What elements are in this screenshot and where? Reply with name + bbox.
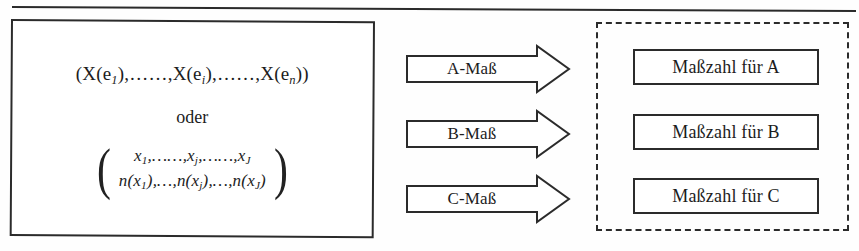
matrix-bot-a: n(x [119, 171, 141, 190]
frequency-matrix: ( x1,……,xj,……,xJ n(x1),…,n(xj),…,n(xJ) ) [94, 144, 290, 193]
result-box-b-label: Maßzahl für B [672, 122, 780, 143]
arrow-a-mass: A-Maß [405, 44, 571, 94]
matrix-rows: x1,……,xj,……,xJ n(x1),…,n(xj),…,n(xJ) [115, 144, 270, 193]
result-box-c-label: Maßzahl für C [672, 186, 780, 207]
matrix-row-counts: n(x1),…,n(xj),…,n(xJ) [119, 169, 266, 194]
vector-mid-1: ),……,X(e [118, 63, 202, 84]
diagram-canvas: (X(e1),……,X(ei),……,X(en)) oder ( x1,……,x… [0, 0, 859, 251]
connector-oder: oder [176, 107, 208, 128]
source-data-content: (X(e1),……,X(ei),……,X(en)) oder ( x1,……,x… [12, 22, 372, 235]
arrow-c-mass-shape [405, 174, 571, 224]
arrow-a-mass-shape [405, 44, 571, 94]
matrix-bot-c: ),…,n(x [203, 171, 255, 190]
matrix-bot-b: ),…,n(x [147, 171, 199, 190]
matrix-row-values: x1,……,xj,……,xJ [134, 144, 251, 169]
top-horizontal-rule [12, 6, 856, 12]
matrix-top-c: ,……,x [198, 146, 245, 165]
matrix-top-b: ,……,x [148, 146, 195, 165]
result-box-a-label: Maßzahl für A [672, 57, 780, 78]
vector-close: )) [296, 63, 309, 84]
arrow-b-mass: B-Maß [405, 109, 571, 159]
result-box-c: Maßzahl für C [633, 178, 819, 214]
random-variable-vector: (X(e1),……,X(ei),……,X(en)) [76, 64, 309, 87]
matrix-bot-end: ) [260, 171, 266, 190]
result-group-dashed-container: Maßzahl für A Maßzahl für B Maßzahl für … [596, 22, 849, 231]
source-data-box: (X(e1),……,X(ei),……,X(en)) oder ( x1,……,x… [10, 19, 375, 238]
vector-open: (X(e [76, 63, 112, 84]
result-box-a: Maßzahl für A [633, 49, 819, 85]
matrix-right-paren: ) [274, 148, 288, 190]
arrow-c-mass: C-Maß [405, 174, 571, 224]
vector-mid-2: ),……,X(e [205, 63, 289, 84]
result-box-b: Maßzahl für B [633, 114, 819, 150]
arrow-b-mass-shape [405, 109, 571, 159]
matrix-top-c-sub: J [245, 154, 250, 166]
matrix-left-paren: ( [97, 148, 111, 190]
